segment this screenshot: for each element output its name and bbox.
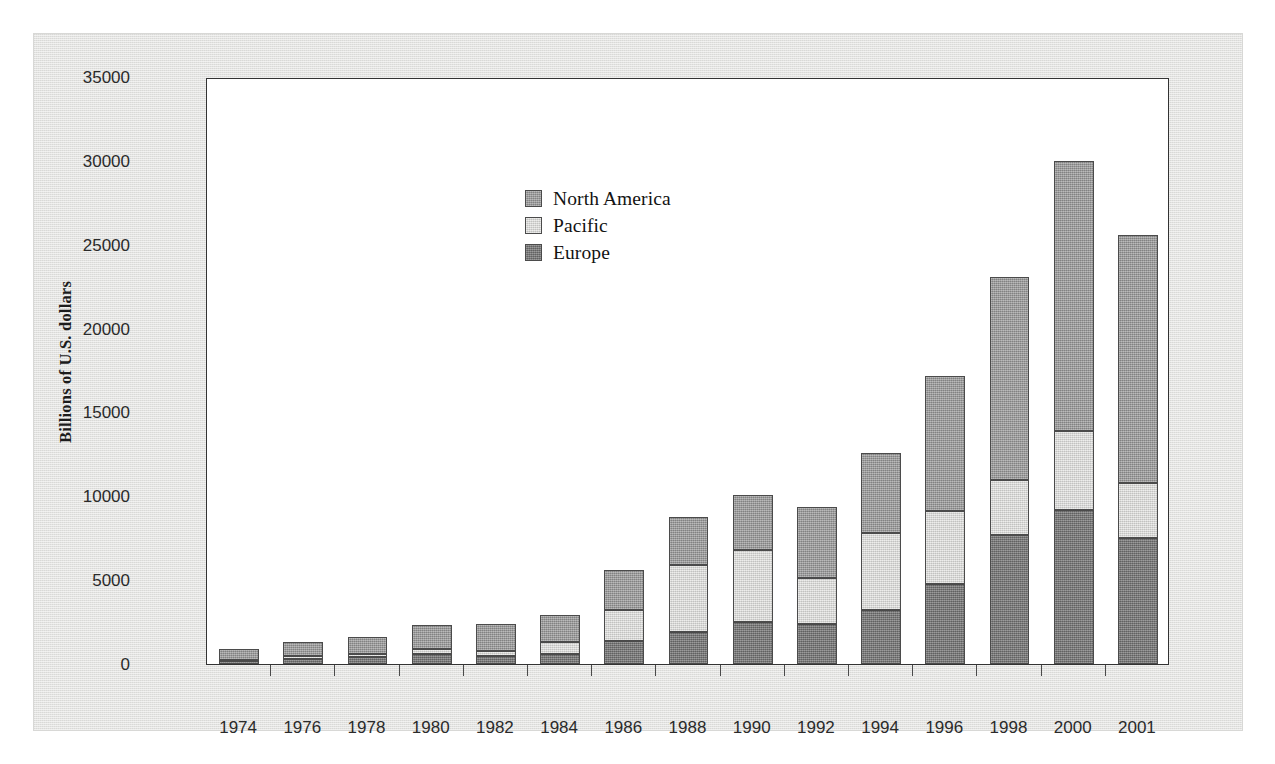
stacked-bar <box>412 625 452 664</box>
x-axis-tick-mark <box>334 665 335 676</box>
legend-item: Pacific <box>525 212 671 239</box>
x-axis-tick-mark <box>912 665 913 676</box>
stacked-bar <box>733 495 773 664</box>
bar-segment-pacific <box>476 651 516 656</box>
stacked-bar <box>348 637 388 664</box>
y-axis-tick-label: 25000 <box>50 236 130 256</box>
legend-item-label: Europe <box>553 242 610 264</box>
bar-segment-pacific <box>733 550 773 622</box>
x-axis-tick-label: 2001 <box>1092 718 1182 738</box>
legend-item-label: North America <box>553 188 671 210</box>
bar-segment-pacific <box>604 610 644 640</box>
legend-item: Europe <box>525 239 671 266</box>
y-axis-tick-label: 5000 <box>50 571 130 591</box>
bar-segment-pacific <box>1118 483 1158 538</box>
bar-segment-pacific <box>925 511 965 583</box>
bar-segment-north-america <box>861 453 901 534</box>
bar-segment-north-america <box>990 277 1030 481</box>
bar-segment-europe <box>476 656 516 664</box>
bar-segment-europe <box>925 584 965 665</box>
x-axis-tick-mark <box>655 665 656 676</box>
bar-segment-pacific <box>1054 431 1094 510</box>
stacked-bar <box>990 277 1030 664</box>
chart-page: Billions of U.S. dollars 050001000015000… <box>0 0 1275 764</box>
stacked-bar <box>219 649 259 664</box>
x-axis-tick-mark <box>399 665 400 676</box>
figure-panel: Billions of U.S. dollars 050001000015000… <box>34 34 1242 730</box>
bar-segment-europe <box>733 622 773 664</box>
legend-item: North America <box>525 185 671 212</box>
legend-item-label: Pacific <box>553 215 608 237</box>
bar-segment-north-america <box>797 507 837 578</box>
y-axis-tick-label: 10000 <box>50 487 130 507</box>
bar-segment-north-america <box>412 625 452 649</box>
stacked-bar <box>540 615 580 664</box>
bar-segment-europe <box>990 535 1030 664</box>
stacked-bar <box>1118 235 1158 664</box>
x-axis-tick-mark <box>784 665 785 676</box>
chart-legend: North AmericaPacificEurope <box>525 185 671 266</box>
bar-segment-pacific <box>669 565 709 632</box>
bar-segment-north-america <box>733 495 773 550</box>
x-axis-tick-mark <box>591 665 592 676</box>
bar-segment-pacific <box>990 480 1030 535</box>
north-america-swatch <box>525 190 542 207</box>
x-axis-tick-mark <box>720 665 721 676</box>
y-axis-tick-label: 35000 <box>50 68 130 88</box>
bar-segment-europe <box>1118 538 1158 664</box>
y-axis-tick-label: 15000 <box>50 403 130 423</box>
bar-segment-north-america <box>604 570 644 610</box>
bar-segment-pacific <box>348 654 388 657</box>
stacked-bar <box>604 570 644 664</box>
bar-segment-europe <box>348 657 388 664</box>
europe-swatch <box>525 244 542 261</box>
x-axis-tick-mark <box>976 665 977 676</box>
bar-segment-pacific <box>797 578 837 623</box>
bar-segment-north-america <box>348 637 388 654</box>
plot-area: North AmericaPacificEurope <box>206 78 1169 665</box>
stacked-bar <box>861 453 901 664</box>
x-axis-tick-mark <box>1105 665 1106 676</box>
bar-segment-europe <box>412 654 452 664</box>
bar-segment-north-america <box>283 642 323 656</box>
bar-segment-europe <box>669 632 709 664</box>
x-axis-tick-mark <box>848 665 849 676</box>
y-axis-tick-label: 20000 <box>50 320 130 340</box>
bar-segment-pacific <box>861 533 901 610</box>
bar-segment-europe <box>797 624 837 664</box>
bar-segment-pacific <box>540 642 580 654</box>
bar-segment-europe <box>219 661 259 664</box>
stacked-bar <box>669 517 709 664</box>
bar-segment-europe <box>1054 510 1094 664</box>
stacked-bar <box>1054 161 1094 664</box>
bar-segment-pacific <box>412 649 452 654</box>
stacked-bar <box>476 624 516 664</box>
bar-segment-north-america <box>669 517 709 565</box>
x-axis-tick-mark <box>527 665 528 676</box>
y-axis-tick-label: 30000 <box>50 152 130 172</box>
bar-segment-north-america <box>925 376 965 512</box>
bar-segment-europe <box>540 654 580 664</box>
bar-segment-europe <box>861 610 901 664</box>
x-axis-tick-mark <box>1041 665 1042 676</box>
x-axis-tick-mark <box>463 665 464 676</box>
bar-segment-north-america <box>1054 161 1094 431</box>
bar-segment-europe <box>604 641 644 664</box>
bar-segment-europe <box>283 659 323 664</box>
y-axis-tick-label: 0 <box>50 655 130 675</box>
stacked-bar <box>797 507 837 664</box>
bar-segment-north-america <box>476 624 516 651</box>
bar-segment-north-america <box>1118 235 1158 483</box>
pacific-swatch <box>525 217 542 234</box>
stacked-bar <box>925 376 965 664</box>
x-axis-tick-mark <box>270 665 271 676</box>
bar-segment-north-america <box>540 615 580 642</box>
stacked-bar <box>283 642 323 664</box>
bar-segment-pacific <box>283 656 323 659</box>
bar-segment-north-america <box>219 649 259 660</box>
